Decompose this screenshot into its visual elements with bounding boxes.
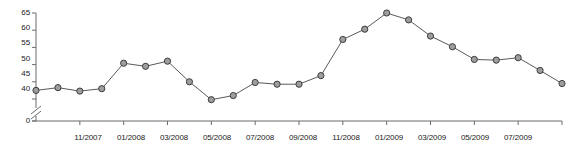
data-point (449, 44, 455, 50)
data-point (318, 73, 324, 79)
data-point (515, 55, 521, 61)
line-chart: 65 60 55 50 45 40 0 11/2007 01/2008 03/2… (0, 0, 574, 149)
data-point (186, 79, 192, 85)
data-point (384, 10, 390, 16)
data-point (493, 57, 499, 63)
data-point (208, 97, 214, 103)
data-point (121, 60, 127, 66)
data-point (362, 26, 368, 32)
data-point (77, 88, 83, 94)
data-point (559, 80, 565, 86)
data-point (405, 17, 411, 23)
data-point (252, 79, 258, 85)
data-point (230, 92, 236, 98)
data-point (471, 56, 477, 62)
data-point (427, 33, 433, 39)
data-point (164, 58, 170, 64)
data-point (55, 85, 61, 91)
data-point (296, 81, 302, 87)
data-point (33, 87, 39, 93)
data-point (340, 36, 346, 42)
chart-canvas (0, 0, 574, 149)
data-point (274, 81, 280, 87)
data-point (142, 63, 148, 69)
data-point (537, 67, 543, 73)
data-point (99, 86, 105, 92)
chart-axes (31, 13, 562, 125)
series-markers (33, 10, 565, 103)
